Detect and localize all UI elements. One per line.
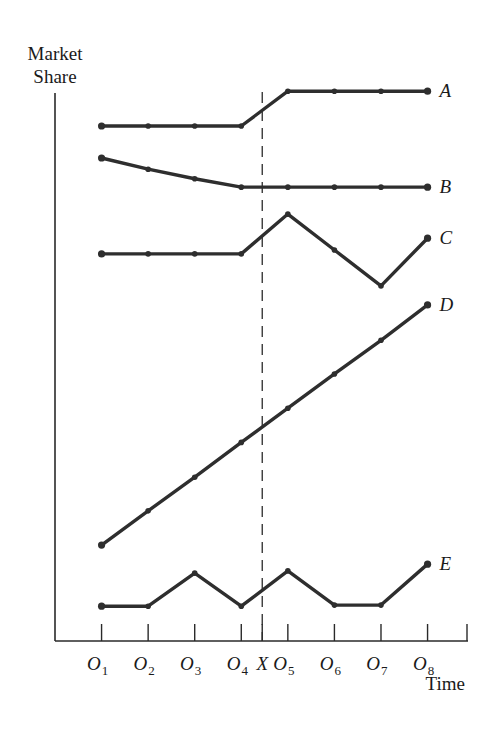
series-label-e: E — [439, 553, 452, 574]
y-axis-label-line-1: Market — [28, 43, 84, 64]
point-b-o5 — [285, 184, 291, 190]
point-c-o7 — [378, 283, 384, 289]
tick-label-subscript: 1 — [102, 663, 109, 678]
x-axis-label: Time — [426, 673, 465, 694]
point-d-o4 — [238, 440, 244, 446]
point-c-o5 — [285, 211, 291, 217]
point-c-o3 — [192, 251, 198, 257]
point-e-o1 — [98, 603, 105, 610]
point-d-o5 — [285, 405, 291, 411]
series-c: C — [98, 211, 453, 288]
tick-label-subscript: 3 — [195, 663, 202, 678]
tick-label-subscript: 7 — [381, 663, 388, 678]
point-a-o3 — [192, 123, 198, 129]
point-d-o2 — [145, 508, 151, 514]
tick-label-letter: O — [227, 653, 241, 674]
series-label-b: B — [440, 176, 452, 197]
point-b-o7 — [378, 184, 384, 190]
x-tick-label-o4: O4 — [227, 653, 249, 678]
point-e-o8 — [424, 561, 431, 568]
point-e-o7 — [378, 602, 384, 608]
point-d-o8 — [424, 301, 431, 308]
point-e-o4 — [238, 603, 244, 609]
point-c-o8 — [424, 235, 431, 242]
y-axis-label-line-2: Share — [33, 66, 76, 87]
point-e-o2 — [145, 603, 151, 609]
point-c-o1 — [98, 250, 105, 257]
x-tick-label-o2: O2 — [134, 653, 155, 678]
series-b: B — [98, 154, 452, 197]
point-d-o6 — [332, 371, 338, 377]
x-tick-label-o5: O5 — [273, 653, 294, 678]
point-d-o1 — [98, 541, 105, 548]
point-b-o4 — [238, 184, 244, 190]
tick-label-subscript: 2 — [148, 663, 155, 678]
tick-label-letter: O — [413, 653, 427, 674]
point-a-o4 — [238, 123, 244, 129]
point-c-o4 — [238, 251, 244, 257]
point-a-o8 — [424, 88, 431, 95]
tick-label-letter: O — [180, 653, 194, 674]
x-tick-label-x: X — [255, 653, 269, 674]
point-d-o3 — [192, 474, 198, 480]
x-tick-label-o3: O3 — [180, 653, 201, 678]
series-label-c: C — [440, 227, 453, 248]
tick-label-subscript: 6 — [335, 663, 342, 678]
y-axis-label: Market Share — [28, 43, 84, 87]
market-share-chart: Market Share O1O2O3O4XO5O6O7O8 ABCDE Tim… — [0, 0, 499, 733]
point-a-o2 — [145, 123, 151, 129]
series-e: E — [98, 553, 452, 610]
tick-label-letter: O — [366, 653, 380, 674]
tick-label-letter: O — [273, 653, 287, 674]
tick-label-letter: O — [320, 653, 334, 674]
series-line-c — [102, 214, 428, 286]
series-label-d: D — [439, 294, 454, 315]
point-b-o3 — [192, 176, 198, 182]
tick-label-letter: O — [134, 653, 148, 674]
point-c-o2 — [145, 251, 151, 257]
tick-label-letter: O — [87, 653, 101, 674]
point-b-o2 — [145, 166, 151, 172]
x-axis-ticks: O1O2O3O4XO5O6O7O8 — [87, 624, 434, 678]
tick-label-letter: X — [255, 653, 269, 674]
point-e-o5 — [285, 568, 291, 574]
point-a-o1 — [98, 122, 105, 129]
point-a-o6 — [332, 88, 338, 94]
point-d-o7 — [378, 338, 384, 344]
x-tick-label-o6: O6 — [320, 653, 342, 678]
point-e-o6 — [332, 602, 338, 608]
point-b-o1 — [98, 154, 105, 161]
point-e-o3 — [192, 570, 198, 576]
point-a-o7 — [378, 88, 384, 94]
point-c-o6 — [332, 247, 338, 253]
series-line-e — [102, 564, 428, 606]
point-b-o6 — [332, 184, 338, 190]
series-d: D — [98, 294, 454, 549]
x-tick-label-o7: O7 — [366, 653, 388, 678]
series-layer: ABCDE — [98, 80, 454, 610]
series-line-b — [102, 158, 428, 187]
series-line-a — [102, 91, 428, 126]
point-b-o8 — [424, 184, 431, 191]
x-tick-label-o1: O1 — [87, 653, 108, 678]
series-label-a: A — [438, 80, 452, 101]
series-a: A — [98, 80, 452, 129]
tick-label-subscript: 4 — [241, 663, 248, 678]
point-a-o5 — [285, 88, 291, 94]
tick-label-subscript: 5 — [288, 663, 295, 678]
